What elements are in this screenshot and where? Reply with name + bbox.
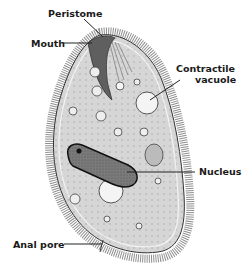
label-contractile-vacuole-line1: Contractile xyxy=(176,63,235,74)
label-anal-pore: Anal pore xyxy=(13,239,65,250)
label-peristome: Peristome xyxy=(48,8,102,19)
label-mouth: Mouth xyxy=(31,38,65,49)
contractile-vacuole-top xyxy=(136,92,158,114)
food-vacuole-forming xyxy=(116,82,124,90)
label-contractile-vacuole-line2: vacuole xyxy=(195,74,236,85)
label-nucleus: Nucleus xyxy=(199,166,241,177)
micronucleus xyxy=(77,149,82,154)
